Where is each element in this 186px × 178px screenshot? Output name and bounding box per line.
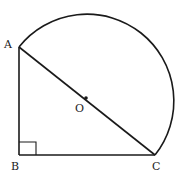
segment-ac: [19, 47, 155, 155]
label-o: O: [75, 102, 84, 115]
geometry-diagram: A B C O: [0, 0, 186, 178]
label-c: C: [152, 160, 160, 173]
label-a: A: [3, 38, 13, 51]
label-b: B: [11, 160, 19, 173]
semicircle-arc: [19, 14, 174, 155]
center-point-o: [84, 96, 88, 100]
right-angle-marker: [19, 142, 36, 155]
